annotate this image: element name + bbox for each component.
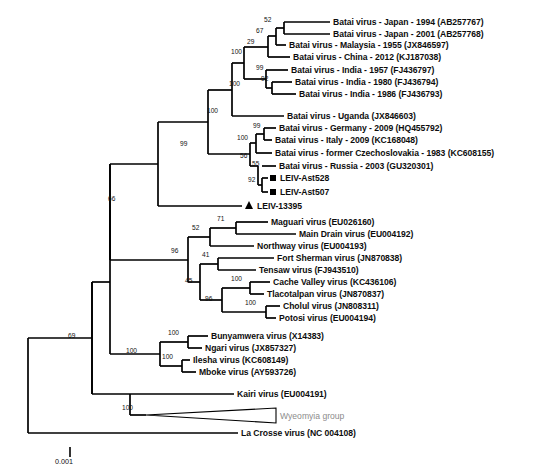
support-value: 100 (231, 48, 242, 55)
tip-label: Bunyamwera virus (X14383) (211, 331, 324, 341)
sample-square-marker (270, 189, 276, 195)
tip-label: Batai virus - India - 1986 (FJ436793) (299, 89, 442, 99)
tip-label: Batai virus - former Czechoslovakia - 19… (275, 148, 494, 158)
tip-label: Batai virus - Germany - 2009 (HQ455792) (279, 123, 442, 133)
scale-bar-label: 0.001 (55, 458, 73, 466)
support-value: 55 (252, 160, 259, 167)
tip-label: Batai virus - China - 2012 (KJ187038) (293, 52, 441, 62)
support-value: 100 (229, 80, 240, 87)
support-value: 100 (237, 134, 248, 141)
tip-label: LEIV-13395 (257, 201, 302, 211)
support-value: 69 (68, 332, 75, 339)
support-value: 92 (261, 75, 268, 82)
support-value: 100 (231, 275, 242, 282)
sample-square-marker (270, 175, 276, 181)
phylogenetic-tree-figure: Batai virus - Japan - 1994 (AB257767) Ba… (0, 0, 534, 472)
support-value: 100 (207, 107, 218, 114)
tip-label: Batai virus - Malaysia - 1955 (JX846597) (289, 40, 448, 50)
support-value: 100 (245, 299, 256, 306)
support-value: 41 (202, 251, 209, 258)
tip-label: Maguari virus (EU026160) (271, 217, 374, 227)
tip-label: LEIV-Ast507 (280, 187, 329, 197)
support-value: 96 (171, 247, 178, 254)
support-value: 56 (240, 152, 247, 159)
support-value: 99 (253, 122, 260, 129)
sample-triangle-marker (245, 201, 253, 209)
support-value: 92 (248, 176, 255, 183)
support-value: 100 (168, 329, 179, 336)
support-value: 52 (192, 224, 199, 231)
tip-label: Ilesha virus (KC608149) (193, 355, 288, 365)
support-value: 66 (108, 195, 115, 202)
tip-label: Batai virus - Italy - 2009 (KC168048) (275, 135, 418, 145)
tip-label: Kairi virus (EU004191) (237, 389, 327, 399)
tip-label: Batai virus - India - 1957 (FJ436797) (291, 65, 434, 75)
support-value: 100 (126, 347, 137, 354)
support-value: 99 (256, 64, 263, 71)
tip-label: Tensaw virus (FJ943510) (259, 265, 358, 275)
tip-label: Cache Valley virus (KC436106) (273, 277, 396, 287)
collapsed-clade-label: Wyeomyia group (280, 411, 344, 421)
tip-label: Potosi virus (EU004194) (279, 313, 376, 323)
tip-label: Batai virus - Japan - 1994 (AB257767) (333, 17, 484, 27)
support-value: 100 (122, 404, 133, 411)
support-value: 67 (256, 27, 263, 34)
wyeomyia-collapsed-clade (146, 408, 276, 423)
tip-label: Batai virus - Japan - 2001 (AB257768) (333, 29, 484, 39)
tree-branches (0, 0, 534, 472)
tip-label: Mboke virus (AY593726) (199, 367, 296, 377)
support-value: 52 (264, 16, 271, 23)
support-value: 45 (185, 277, 192, 284)
tip-label: Cholul virus (JN808311) (283, 301, 379, 311)
support-value: 71 (217, 215, 224, 222)
tip-label: La Crosse virus (NC 004108) (241, 428, 356, 438)
support-value: 96 (205, 295, 212, 302)
tip-label: Northway virus (EU004193) (257, 241, 367, 251)
tip-label: Batai virus - Uganda (JX846603) (287, 111, 416, 121)
support-value: 29 (247, 38, 254, 45)
support-value: 100 (162, 353, 173, 360)
tip-label: Batai virus - India - 1980 (FJ436794) (295, 77, 438, 87)
tip-label: Batai virus - Russia - 2003 (GU320301) (279, 161, 433, 171)
tip-label: Tlacotalpan virus (JN870837) (267, 289, 384, 299)
tip-label: Fort Sherman virus (JN870838) (277, 253, 402, 263)
tip-label: Ngari virus (JX857327) (205, 343, 296, 353)
support-value: 99 (180, 140, 187, 147)
tip-label: LEIV-Ast528 (280, 173, 329, 183)
tip-label: Main Drain virus (EU004192) (299, 229, 413, 239)
